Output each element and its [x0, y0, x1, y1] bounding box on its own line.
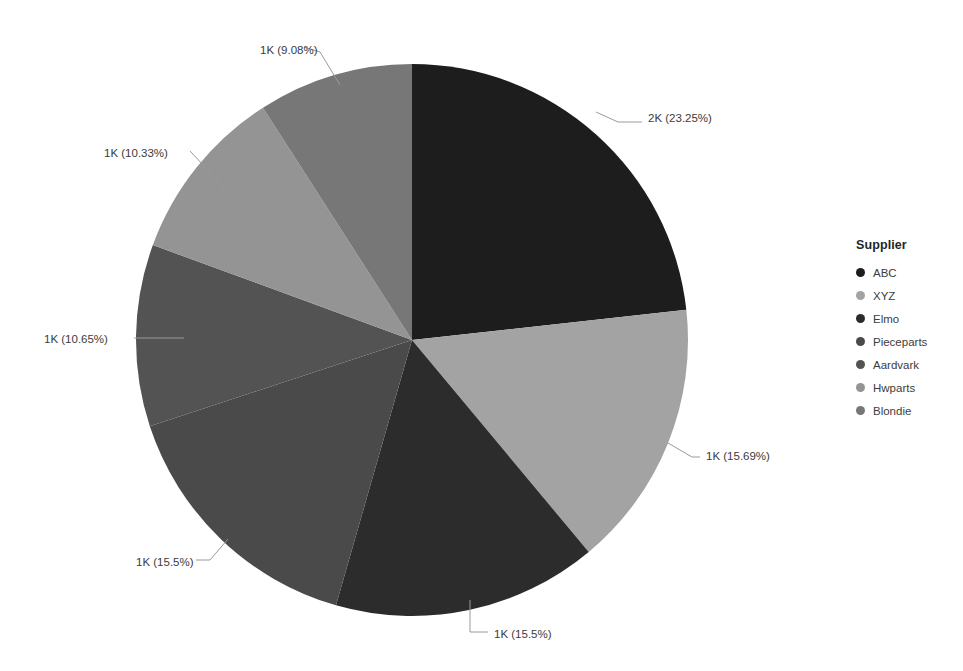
legend-swatch-icon	[856, 337, 865, 346]
legend-swatch-icon	[856, 268, 865, 277]
legend-item-label: Hwparts	[873, 382, 915, 394]
legend-item-abc[interactable]: ABC	[856, 261, 958, 284]
legend-swatch-icon	[856, 360, 865, 369]
legend-swatch-icon	[856, 291, 865, 300]
pie-chart-canvas[interactable]: 2K (23.25%)1K (15.69%)1K (15.5%)1K (15.5…	[0, 0, 963, 671]
pie-slice-abc[interactable]	[412, 64, 686, 340]
data-label-pieceparts: 1K (15.5%)	[136, 556, 194, 568]
legend-item-label: Pieceparts	[873, 336, 927, 348]
pie-slices-group[interactable]	[136, 64, 688, 616]
pie-chart-figure: 2K (23.25%)1K (15.69%)1K (15.5%)1K (15.5…	[0, 0, 963, 671]
data-label-elmo: 1K (15.5%)	[494, 628, 552, 640]
legend-swatch-icon	[856, 314, 865, 323]
data-label-xyz: 1K (15.69%)	[706, 450, 770, 462]
legend-item-xyz[interactable]: XYZ	[856, 284, 958, 307]
data-label-blondie: 1K (9.08%)	[260, 44, 318, 56]
leader-line-xyz	[668, 443, 700, 457]
data-label-hwparts: 1K (10.33%)	[104, 147, 168, 159]
legend-item-label: XYZ	[873, 290, 895, 302]
legend-item-pieceparts[interactable]: Pieceparts	[856, 330, 958, 353]
leader-line-abc	[596, 112, 642, 122]
data-label-abc: 2K (23.25%)	[648, 112, 712, 124]
legend-item-hwparts[interactable]: Hwparts	[856, 376, 958, 399]
legend-item-elmo[interactable]: Elmo	[856, 307, 958, 330]
legend-item-label: ABC	[873, 267, 897, 279]
legend-items-list[interactable]: ABCXYZElmoPiecepartsAardvarkHwpartsBlond…	[856, 261, 958, 422]
legend-swatch-icon	[856, 383, 865, 392]
legend-item-aardvark[interactable]: Aardvark	[856, 353, 958, 376]
leader-line-pieceparts	[196, 539, 228, 560]
legend-title: Supplier	[856, 238, 958, 252]
legend-item-label: Blondie	[873, 405, 911, 417]
legend-item-label: Elmo	[873, 313, 899, 325]
legend-item-label: Aardvark	[873, 359, 919, 371]
legend-swatch-icon	[856, 406, 865, 415]
data-label-aardvark: 1K (10.65%)	[44, 333, 108, 345]
legend: Supplier ABCXYZElmoPiecepartsAardvarkHwp…	[856, 238, 958, 422]
legend-item-blondie[interactable]: Blondie	[856, 399, 958, 422]
